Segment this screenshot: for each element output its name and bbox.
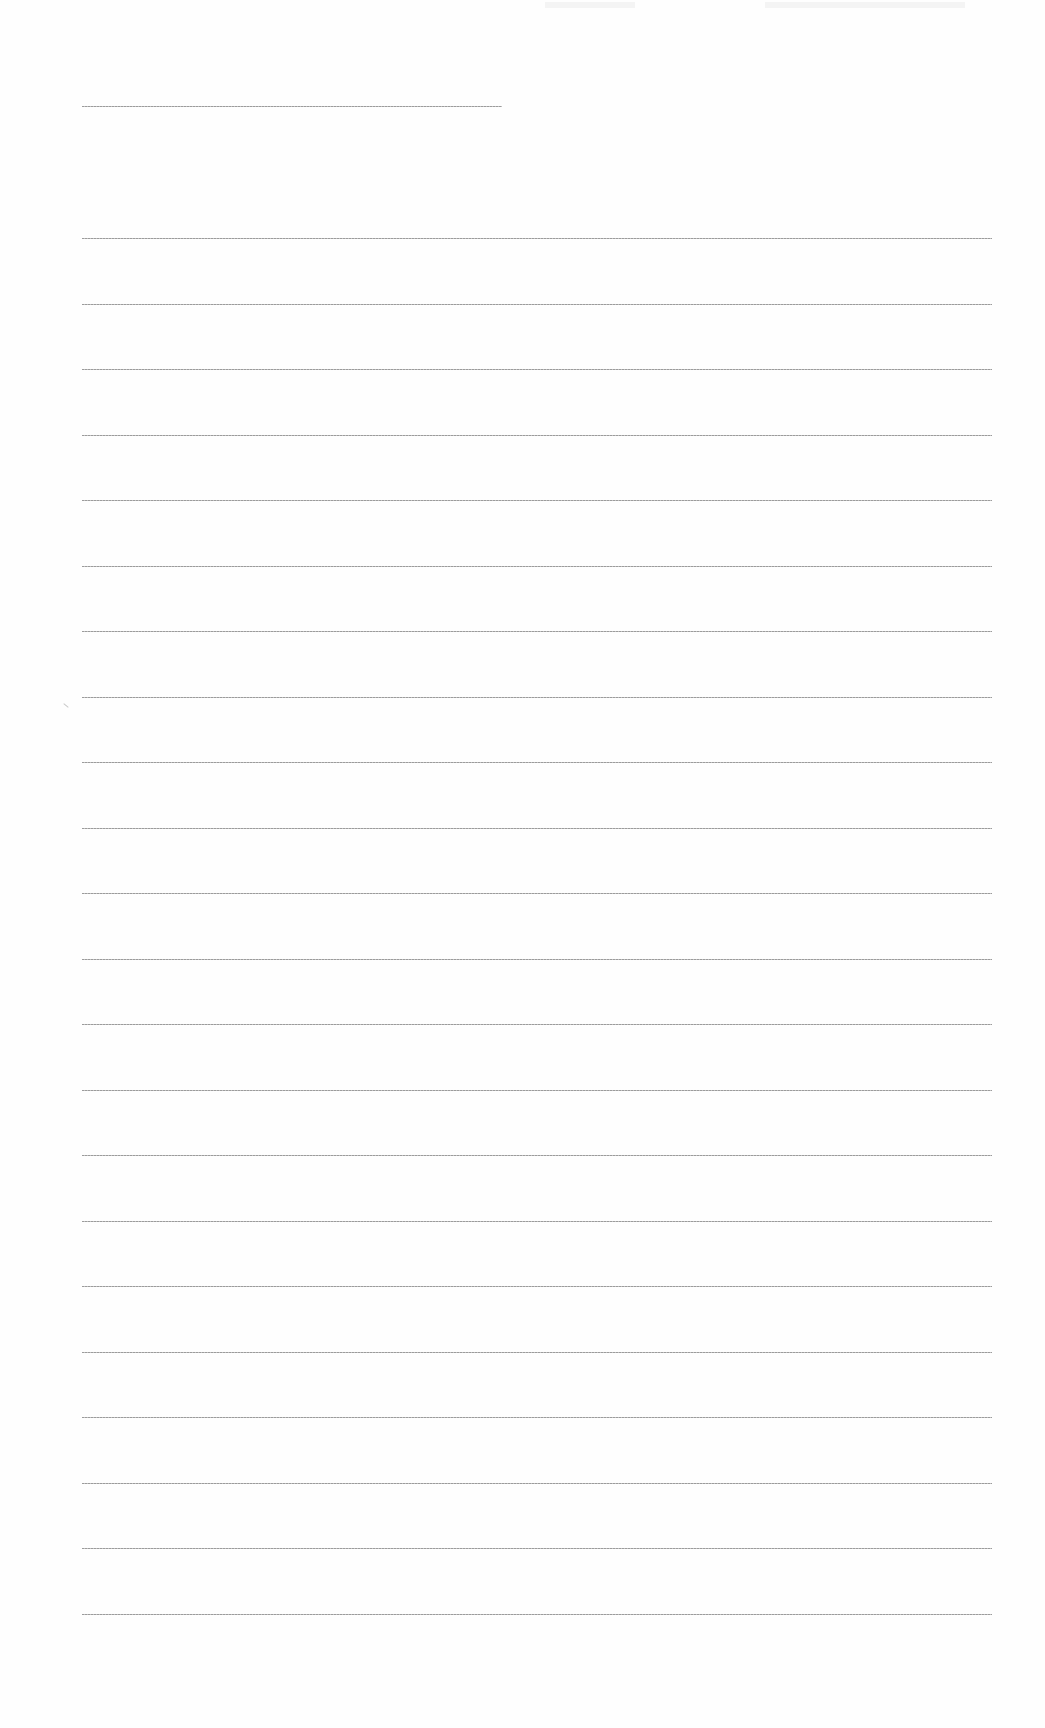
writing-line[interactable] xyxy=(82,1090,992,1091)
writing-line[interactable] xyxy=(82,631,992,632)
writing-line[interactable] xyxy=(82,1417,992,1418)
writing-line[interactable] xyxy=(82,566,992,567)
writing-line[interactable] xyxy=(82,1286,992,1287)
bleed-through-mark xyxy=(545,2,635,8)
writing-line[interactable] xyxy=(82,1548,992,1549)
writing-line[interactable] xyxy=(82,1352,992,1353)
writing-line[interactable] xyxy=(82,1221,992,1222)
writing-line[interactable] xyxy=(82,1024,992,1025)
writing-line[interactable] xyxy=(82,1614,992,1615)
writing-line[interactable] xyxy=(82,893,992,894)
writing-line[interactable] xyxy=(82,828,992,829)
writing-line[interactable] xyxy=(82,959,992,960)
title-line[interactable] xyxy=(82,106,502,107)
writing-line[interactable] xyxy=(82,304,992,305)
writing-line[interactable] xyxy=(82,1483,992,1484)
scan-speck xyxy=(63,703,68,708)
writing-line[interactable] xyxy=(82,500,992,501)
writing-line[interactable] xyxy=(82,238,992,239)
writing-line[interactable] xyxy=(82,1155,992,1156)
bleed-through-mark xyxy=(765,2,965,8)
writing-line[interactable] xyxy=(82,435,992,436)
lined-paper-page xyxy=(0,0,1045,1728)
writing-line[interactable] xyxy=(82,369,992,370)
writing-line[interactable] xyxy=(82,762,992,763)
writing-line[interactable] xyxy=(82,697,992,698)
